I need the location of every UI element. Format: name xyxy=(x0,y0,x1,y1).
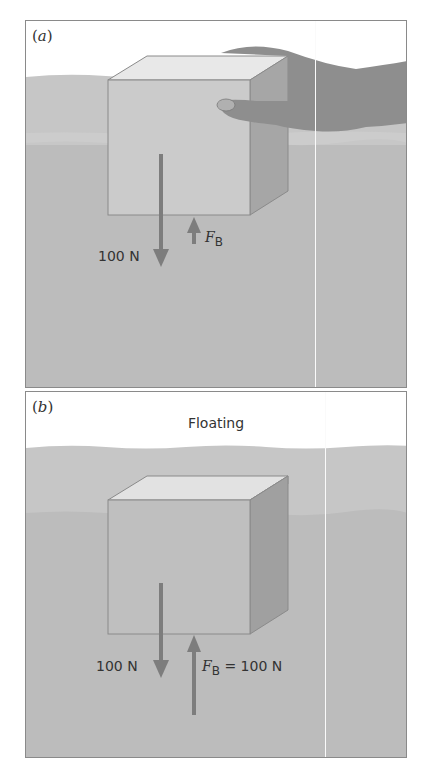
block-front xyxy=(108,500,250,634)
paper-crease xyxy=(315,21,316,387)
panel-b-illustration xyxy=(26,392,407,758)
paper-crease xyxy=(325,392,326,757)
block-side xyxy=(250,56,288,215)
panel-a-illustration xyxy=(26,21,407,388)
buoyant-force-label-a: FB xyxy=(205,229,223,249)
buoyant-force-label-b: FB = 100 N xyxy=(202,658,282,678)
panel-b: (b) Floating 100 N FB = 100 N xyxy=(25,391,407,758)
thumb-nail xyxy=(217,99,235,111)
weight-label-b: 100 N xyxy=(96,658,138,674)
weight-label-a: 100 N xyxy=(98,248,140,264)
caption-floating: Floating xyxy=(26,415,406,431)
panel-a: (a) 100 N FB xyxy=(25,20,407,388)
panel-label-b: (b) xyxy=(32,398,53,416)
panel-label-a: (a) xyxy=(32,27,53,45)
block-side xyxy=(250,476,288,634)
